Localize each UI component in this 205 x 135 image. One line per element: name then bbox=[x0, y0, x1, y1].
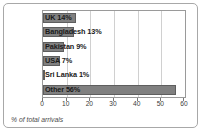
axis-tick-label: 30 bbox=[109, 100, 116, 107]
x-axis-title: % of total arrivals bbox=[11, 116, 63, 123]
bar-row: USA 7% bbox=[43, 54, 185, 68]
bar-row: Bangladesh 13% bbox=[43, 25, 185, 39]
plot-area: UK 14%Bangladesh 13%Pakistan 9%USA 7%Sri… bbox=[42, 10, 186, 98]
axis-tick-label: 20 bbox=[86, 100, 93, 107]
bar-data-label: USA 7% bbox=[45, 55, 72, 67]
bar-data-label: Sri Lanka 1% bbox=[45, 69, 89, 81]
chart-card: UK 14%Bangladesh 13%Pakistan 9%USA 7%Sri… bbox=[3, 3, 198, 128]
bar-row: Pakistan 9% bbox=[43, 40, 185, 54]
axis-tick-label: 40 bbox=[133, 100, 140, 107]
axis-tick-label: 50 bbox=[157, 100, 164, 107]
bar-row: UK 14% bbox=[43, 11, 185, 25]
bar-data-label: Pakistan 9% bbox=[45, 41, 87, 53]
axis-tick-label: 10 bbox=[62, 100, 69, 107]
axis-tick-label: 0 bbox=[40, 100, 44, 107]
axis-tick-label: 60 bbox=[180, 100, 187, 107]
bar-row: Sri Lanka 1% bbox=[43, 68, 185, 82]
bar-data-label: UK 14% bbox=[45, 12, 72, 24]
bar-row: Other 56% bbox=[43, 83, 185, 97]
x-axis: 0102030405060 bbox=[42, 98, 186, 110]
bar-data-label: Other 56% bbox=[45, 84, 80, 96]
bar-data-label: Bangladesh 13% bbox=[45, 26, 102, 38]
plot-wrapper: UK 14%Bangladesh 13%Pakistan 9%USA 7%Sri… bbox=[11, 10, 192, 108]
